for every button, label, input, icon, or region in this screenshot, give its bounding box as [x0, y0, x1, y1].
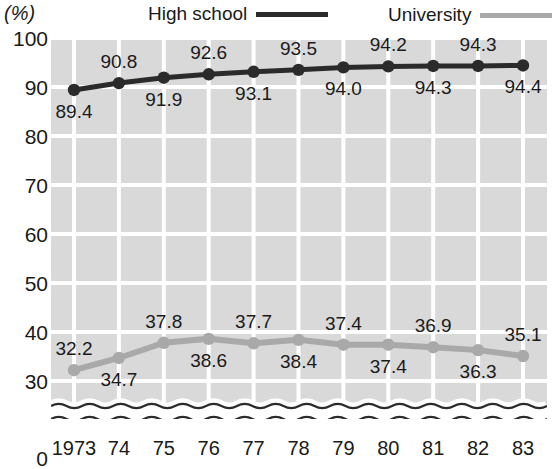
x-axis-tick-80: 80 — [377, 438, 399, 458]
value-label-university-1973: 32.2 — [56, 339, 93, 358]
value-label-high-school-81: 94.3 — [415, 78, 452, 97]
value-label-high-school-74: 90.8 — [100, 52, 137, 71]
value-label-university-77: 37.7 — [235, 312, 272, 331]
value-label-high-school-79: 94.0 — [325, 79, 362, 98]
x-axis-tick-78: 78 — [287, 438, 309, 458]
value-label-high-school-1973: 89.4 — [56, 102, 93, 121]
x-axis-tick-81: 81 — [422, 438, 444, 458]
value-label-high-school-77: 93.1 — [235, 84, 272, 103]
x-axis-tick-75: 75 — [153, 438, 175, 458]
x-axis-tick-77: 77 — [242, 438, 264, 458]
x-axis-tick-83: 83 — [512, 438, 534, 458]
value-label-high-school-83: 94.4 — [505, 77, 542, 96]
value-label-high-school-82: 94.3 — [460, 35, 497, 54]
value-label-high-school-76: 92.6 — [190, 43, 227, 62]
data-value-labels: 89.490.891.992.693.193.594.094.294.394.3… — [0, 0, 552, 469]
value-label-high-school-78: 93.5 — [280, 39, 317, 58]
x-axis-tick-74: 74 — [108, 438, 130, 458]
x-axis-tick-labels: 197374757677787980818283 — [0, 438, 552, 468]
value-label-university-81: 36.9 — [415, 316, 452, 335]
chart-root: (%) High school University 1009080706050… — [0, 0, 552, 469]
value-label-university-75: 37.8 — [145, 312, 182, 331]
value-label-university-82: 36.3 — [460, 362, 497, 381]
value-label-university-78: 38.4 — [280, 352, 317, 371]
value-label-high-school-80: 94.2 — [370, 35, 407, 54]
value-label-university-79: 37.4 — [325, 314, 362, 333]
x-axis-tick-76: 76 — [198, 438, 220, 458]
x-axis-tick-79: 79 — [332, 438, 354, 458]
x-axis-tick-82: 82 — [467, 438, 489, 458]
value-label-university-80: 37.4 — [370, 357, 407, 376]
value-label-university-74: 34.7 — [100, 370, 137, 389]
value-label-high-school-75: 91.9 — [145, 90, 182, 109]
value-label-university-83: 35.1 — [505, 325, 542, 344]
value-label-university-76: 38.6 — [190, 351, 227, 370]
x-axis-tick-1973: 1973 — [52, 438, 97, 458]
